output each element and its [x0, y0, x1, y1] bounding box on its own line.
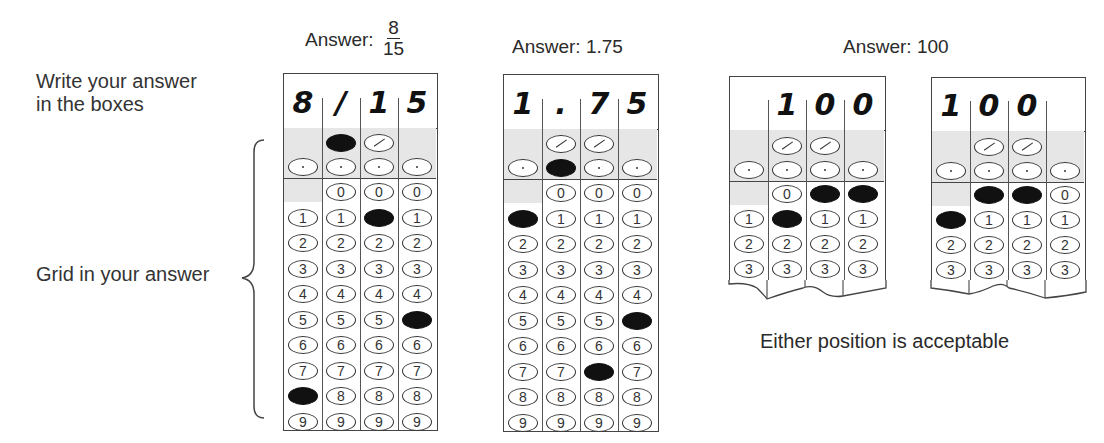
bubble-digit-filled[interactable] [288, 387, 318, 405]
bubble-digit[interactable]: 0 [622, 184, 652, 202]
bubble-digit[interactable]: 6 [364, 336, 394, 354]
bubble-digit[interactable]: 0 [364, 183, 394, 201]
bubble-digit[interactable]: 1 [734, 210, 764, 228]
bubble-digit[interactable]: 1 [402, 209, 432, 227]
bubble-digit[interactable]: 0 [326, 183, 356, 201]
bubble-decimal[interactable] [772, 161, 802, 179]
bubble-digit[interactable]: 9 [622, 414, 652, 432]
bubble-digit[interactable]: 9 [402, 413, 432, 431]
bubble-digit[interactable]: 2 [364, 234, 394, 252]
bubble-digit[interactable]: 1 [1050, 211, 1080, 229]
bubble-digit[interactable]: 1 [584, 210, 614, 228]
bubble-slash[interactable] [584, 135, 614, 153]
bubble-digit[interactable]: 7 [546, 363, 576, 381]
bubble-digit-filled[interactable] [810, 185, 840, 203]
bubble-digit[interactable]: 9 [288, 413, 318, 431]
bubble-slash[interactable] [1012, 138, 1042, 156]
bubble-digit[interactable]: 3 [584, 261, 614, 279]
bubble-digit[interactable]: 2 [622, 235, 652, 253]
bubble-digit[interactable]: 5 [546, 312, 576, 330]
bubble-digit-filled[interactable] [974, 186, 1004, 204]
bubble-decimal[interactable] [1012, 162, 1042, 180]
bubble-digit-filled[interactable] [936, 211, 966, 229]
bubble-digit[interactable]: 3 [622, 261, 652, 279]
bubble-digit[interactable]: 2 [974, 236, 1004, 254]
bubble-digit[interactable]: 1 [1012, 211, 1042, 229]
bubble-digit[interactable]: 2 [734, 235, 764, 253]
bubble-digit[interactable]: 1 [288, 209, 318, 227]
bubble-digit[interactable]: 1 [974, 211, 1004, 229]
bubble-digit[interactable]: 9 [364, 413, 394, 431]
bubble-decimal[interactable] [402, 158, 432, 176]
bubble-digit[interactable]: 1 [546, 210, 576, 228]
bubble-decimal[interactable] [364, 158, 394, 176]
bubble-digit[interactable]: 4 [622, 286, 652, 304]
bubble-digit[interactable]: 4 [508, 286, 538, 304]
bubble-digit[interactable]: 8 [546, 388, 576, 406]
bubble-digit[interactable]: 3 [402, 260, 432, 278]
bubble-digit[interactable]: 6 [326, 336, 356, 354]
bubble-digit-filled[interactable] [402, 311, 432, 329]
bubble-digit[interactable]: 8 [364, 387, 394, 405]
bubble-digit[interactable]: 8 [508, 388, 538, 406]
bubble-decimal-filled[interactable] [546, 159, 576, 177]
bubble-slash[interactable] [810, 137, 840, 155]
bubble-digit[interactable]: 1 [848, 210, 878, 228]
bubble-digit-filled[interactable] [1012, 186, 1042, 204]
bubble-digit[interactable]: 3 [288, 260, 318, 278]
bubble-digit[interactable]: 7 [508, 363, 538, 381]
bubble-digit-filled[interactable] [848, 185, 878, 203]
bubble-digit[interactable]: 6 [546, 337, 576, 355]
bubble-digit[interactable]: 8 [402, 387, 432, 405]
bubble-slash[interactable] [772, 137, 802, 155]
bubble-digit[interactable]: 1 [622, 210, 652, 228]
bubble-slash[interactable] [364, 134, 394, 152]
bubble-digit[interactable]: 9 [326, 413, 356, 431]
bubble-digit-filled[interactable] [584, 363, 614, 381]
bubble-digit[interactable]: 6 [402, 336, 432, 354]
bubble-digit[interactable]: 7 [288, 362, 318, 380]
bubble-digit[interactable]: 2 [1012, 236, 1042, 254]
bubble-digit[interactable]: 7 [622, 363, 652, 381]
bubble-digit[interactable]: 1 [326, 209, 356, 227]
bubble-digit[interactable]: 0 [402, 183, 432, 201]
bubble-decimal[interactable] [810, 161, 840, 179]
bubble-digit[interactable]: 0 [1050, 186, 1080, 204]
bubble-digit[interactable]: 5 [364, 311, 394, 329]
bubble-decimal[interactable] [508, 159, 538, 177]
bubble-digit[interactable]: 2 [1050, 236, 1080, 254]
bubble-digit[interactable]: 3 [326, 260, 356, 278]
bubble-decimal[interactable] [584, 159, 614, 177]
bubble-digit-filled[interactable] [508, 210, 538, 228]
bubble-digit[interactable]: 1 [810, 210, 840, 228]
bubble-digit[interactable]: 2 [402, 234, 432, 252]
bubble-decimal[interactable] [622, 159, 652, 177]
bubble-digit[interactable]: 0 [772, 185, 802, 203]
bubble-digit[interactable]: 2 [584, 235, 614, 253]
bubble-digit[interactable]: 4 [402, 285, 432, 303]
bubble-digit[interactable]: 4 [288, 285, 318, 303]
bubble-digit[interactable]: 6 [508, 337, 538, 355]
bubble-digit[interactable]: 2 [848, 235, 878, 253]
bubble-digit[interactable]: 2 [326, 234, 356, 252]
bubble-digit[interactable]: 5 [508, 312, 538, 330]
bubble-digit[interactable]: 0 [546, 184, 576, 202]
bubble-digit[interactable]: 6 [288, 336, 318, 354]
bubble-digit[interactable]: 7 [326, 362, 356, 380]
bubble-digit[interactable]: 5 [288, 311, 318, 329]
bubble-digit[interactable]: 5 [584, 312, 614, 330]
bubble-digit[interactable]: 4 [546, 286, 576, 304]
bubble-digit[interactable]: 4 [364, 285, 394, 303]
bubble-slash[interactable] [974, 138, 1004, 156]
bubble-digit[interactable]: 4 [584, 286, 614, 304]
bubble-digit[interactable]: 3 [364, 260, 394, 278]
bubble-digit[interactable]: 9 [508, 414, 538, 432]
bubble-decimal[interactable] [734, 161, 764, 179]
bubble-digit[interactable]: 3 [546, 261, 576, 279]
bubble-digit[interactable]: 2 [288, 234, 318, 252]
bubble-decimal[interactable] [848, 161, 878, 179]
bubble-digit-filled[interactable] [772, 210, 802, 228]
bubble-digit-filled[interactable] [364, 209, 394, 227]
bubble-digit[interactable]: 6 [584, 337, 614, 355]
bubble-slash-filled[interactable] [326, 134, 356, 152]
